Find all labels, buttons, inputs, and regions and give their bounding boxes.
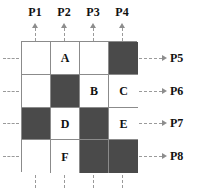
row-arrow-p7-icon <box>162 120 167 126</box>
column-label-p2: P2 <box>49 6 79 18</box>
grid-cell-r3c3 <box>80 108 109 140</box>
column-bottom-guide-1 <box>35 175 36 188</box>
column-label-p3: P3 <box>78 6 108 18</box>
row-label-p5: P5 <box>170 52 183 64</box>
column-guide-p4 <box>122 28 123 41</box>
grid-cell-r4c4 <box>109 140 138 173</box>
column-label-p4: P4 <box>107 6 137 18</box>
column-guide-p2 <box>64 28 65 41</box>
row-arrow-p6-icon <box>162 88 167 94</box>
grid-cell-r4c1 <box>22 140 51 173</box>
grid-cell-r2c4: C <box>109 75 138 108</box>
row-guide-p6 <box>139 91 162 92</box>
grid-cell-r1c1 <box>22 42 51 75</box>
row-left-guide-4 <box>3 156 19 157</box>
grid-cell-r4c3 <box>80 140 109 173</box>
grid-cell-r1c4 <box>109 42 138 75</box>
grid-cell-r4c2: F <box>51 140 80 173</box>
column-guide-p1 <box>35 28 36 41</box>
row-guide-p8 <box>139 156 162 157</box>
row-left-guide-3 <box>3 123 19 124</box>
row-left-guide-1 <box>3 58 19 59</box>
grid-cell-r1c2: A <box>51 42 80 75</box>
row-arrow-p5-icon <box>162 55 167 61</box>
grid-cell-r3c4: E <box>109 108 138 140</box>
column-bottom-guide-3 <box>93 175 94 188</box>
grid-cell-r2c2 <box>51 75 80 108</box>
row-label-p8: P8 <box>170 150 183 162</box>
row-label-p7: P7 <box>170 117 183 129</box>
column-label-p1: P1 <box>20 6 50 18</box>
column-bottom-guide-2 <box>64 175 65 188</box>
column-guide-p3 <box>93 28 94 41</box>
puzzle-grid: A B C D E F <box>21 41 137 172</box>
grid-cell-r3c1 <box>22 108 51 140</box>
row-guide-p5 <box>139 58 162 59</box>
row-left-guide-2 <box>3 91 19 92</box>
row-guide-p7 <box>139 123 162 124</box>
grid-cell-r2c3: B <box>80 75 109 108</box>
grid-cell-r3c2: D <box>51 108 80 140</box>
grid-cell-r1c3 <box>80 42 109 75</box>
column-bottom-guide-4 <box>122 175 123 188</box>
grid-cell-r2c1 <box>22 75 51 108</box>
row-label-p6: P6 <box>170 85 183 97</box>
grid-figure: P1 P2 P3 P4 A B C D E F P5 <box>0 0 198 195</box>
row-arrow-p8-icon <box>162 153 167 159</box>
